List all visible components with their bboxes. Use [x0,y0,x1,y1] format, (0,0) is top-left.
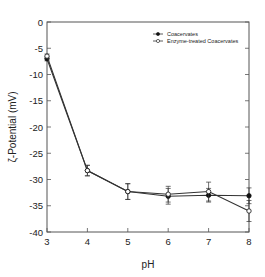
y-tick-label: 0 [38,17,43,28]
x-tick-label: 7 [206,236,211,247]
open-circle-marker [85,168,89,172]
series-layer [45,54,252,222]
filled-circle-marker [247,194,251,198]
open-circle-marker [45,54,49,58]
y-tick-label: -15 [29,95,43,106]
y-tick-label: -5 [35,43,43,54]
open-circle-marker [166,192,170,196]
x-tick-label: 3 [44,236,49,247]
y-tick-label: -20 [29,122,43,133]
open-circle-marker [247,209,251,213]
zeta-potential-chart: 0-5-10-15-20-25-30-35-40 345678 Coacerva… [0,0,265,277]
y-tick-label: -30 [29,174,43,185]
y-tick-label: -10 [29,69,43,80]
open-circle-icon [156,39,159,42]
x-tick-label: 6 [166,236,171,247]
x-axis-title: pH [142,259,155,270]
x-axis-ticks: 345678 [44,228,251,247]
legend-label: Enzyme-treated Coacervates [167,38,238,44]
legend-label: Coacervates [167,31,198,37]
legend-item: Enzyme-treated Coacervates [153,38,238,44]
open-circle-marker [126,189,130,193]
y-axis-title: ζ-Potential (mV) [7,91,19,162]
y-tick-label: -35 [29,200,43,211]
y-tick-label: -40 [29,227,43,238]
x-tick-label: 8 [246,236,251,247]
legend-item: Coacervates [153,31,198,37]
x-tick-label: 5 [125,236,130,247]
y-tick-label: -25 [29,148,43,159]
x-tick-label: 4 [85,236,90,247]
series-coacervates [45,57,252,205]
filled-circle-icon [156,32,159,35]
y-axis-ticks: 0-5-10-15-20-25-30-35-40 [29,17,249,238]
legend: CoacervatesEnzyme-treated Coacervates [153,31,238,44]
plot-frame [47,22,249,232]
open-circle-marker [206,189,210,193]
series-enzyme-treated-coacervates [45,54,252,222]
